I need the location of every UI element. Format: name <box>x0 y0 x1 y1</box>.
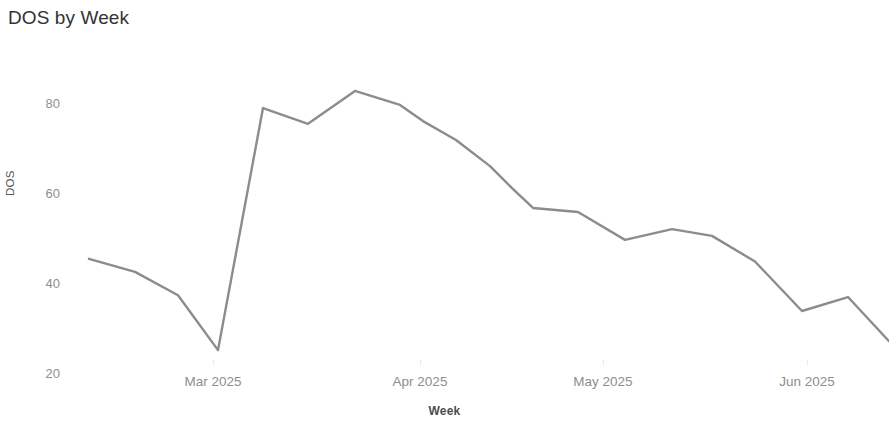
line-series-path <box>89 91 889 350</box>
plot-area <box>0 0 889 427</box>
y-axis-tick-label: 20 <box>20 366 60 381</box>
y-axis-tick-label: 80 <box>20 96 60 111</box>
x-axis-tick-label: Apr 2025 <box>365 374 475 389</box>
line-series-svg <box>0 0 889 427</box>
x-axis-tick-mark <box>603 360 604 365</box>
x-axis-tick-mark <box>213 360 214 365</box>
x-axis-tick-mark <box>807 360 808 365</box>
y-axis-title: DOS <box>4 170 16 196</box>
x-axis-tick-label: Mar 2025 <box>158 374 268 389</box>
x-axis-tick-mark <box>420 360 421 365</box>
y-axis-tick-label: 60 <box>20 186 60 201</box>
y-axis-tick-label: 40 <box>20 276 60 291</box>
x-axis-title: Week <box>0 404 889 418</box>
x-axis-tick-label: May 2025 <box>548 374 658 389</box>
chart-container: DOS by Week 20406080 Mar 2025Apr 2025May… <box>0 0 889 427</box>
x-axis-tick-label: Jun 2025 <box>752 374 862 389</box>
